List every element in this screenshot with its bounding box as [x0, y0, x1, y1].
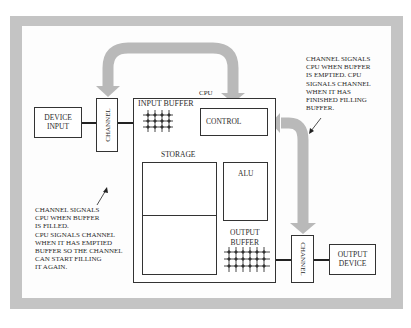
right-annotation: CHANNEL SIGNALS CPU WHEN BUFFER IS EMPTI…: [306, 55, 371, 112]
output-device-box: OUTPUT DEVICE: [329, 244, 376, 275]
channel-out-label: CHANNEL: [299, 237, 307, 281]
output-device-label: OUTPUT DEVICE: [338, 251, 368, 268]
channel-out-box: CHANNEL: [291, 235, 314, 283]
output-buffer-grid-icon: [0, 0, 411, 328]
left-annotation: CHANNEL SIGNALS CPU WHEN BUFFER IS FILLE…: [35, 206, 123, 272]
